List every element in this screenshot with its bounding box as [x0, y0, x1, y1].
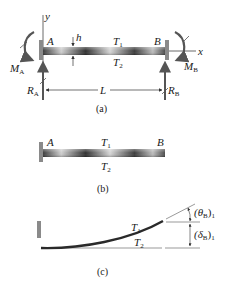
y-axis-label: y: [44, 10, 50, 22]
reaction-b-label: RB: [167, 84, 180, 98]
length-label: L: [99, 84, 106, 96]
tangent-line: [166, 204, 195, 219]
x-axis-label: x: [197, 45, 203, 57]
moment-b-arrow: [175, 32, 184, 60]
top-temp-label: T1: [113, 35, 123, 49]
part-c: (θB)1 (δB)1 T1 T2 (c): [37, 204, 215, 278]
beam-thermal-diagram: y x A B h T1 T2 MA MB RA: [0, 0, 229, 281]
moment-a-arrow: [25, 32, 34, 60]
bottom-temp-label: T2: [134, 236, 144, 250]
caption-b: (b): [97, 183, 109, 195]
fixed-support-b: [165, 40, 169, 60]
rotation-arc: [188, 208, 190, 221]
rotation-label: (θB)1: [194, 206, 215, 220]
point-b-label: B: [157, 136, 164, 148]
part-a: y x A B h T1 T2 MA MB RA: [9, 10, 203, 115]
thickness-label: h: [76, 31, 82, 43]
fixed-support: [37, 221, 41, 238]
fixed-support: [39, 142, 43, 162]
caption-c: (c): [97, 266, 108, 278]
deflected-beam: [41, 221, 163, 248]
top-temp-label: T1: [101, 136, 111, 150]
point-a-label: A: [46, 35, 54, 47]
moment-a-label: MA: [9, 62, 24, 76]
deflection-label: (δB)1: [194, 228, 215, 242]
part-b: A B T1 T2 (b): [39, 136, 165, 195]
reaction-a-label: RA: [26, 84, 39, 98]
moment-b-label: MB: [183, 60, 198, 74]
caption-a: (a): [96, 103, 107, 115]
point-a-label: A: [46, 136, 54, 148]
top-temp-label: T1: [131, 221, 141, 235]
bottom-temp-label: T2: [113, 56, 123, 70]
fixed-support-a: [39, 40, 43, 60]
bottom-temp-label: T2: [101, 160, 111, 174]
point-b-label: B: [154, 35, 161, 47]
